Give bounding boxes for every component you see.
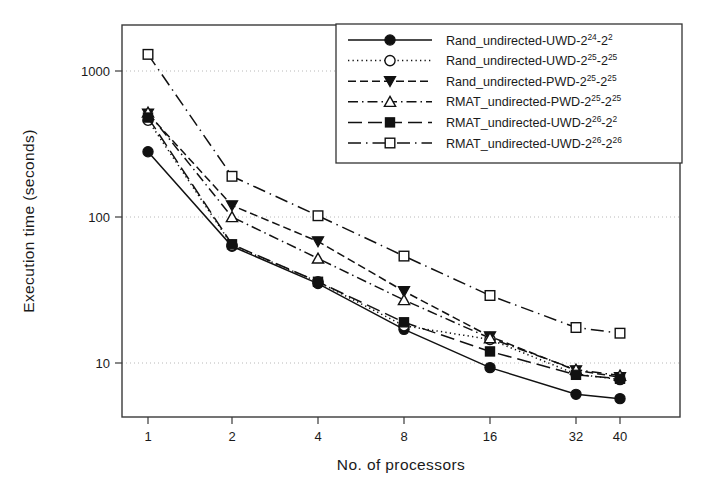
data-point-marker [227, 240, 236, 249]
data-point-marker [313, 211, 323, 221]
data-point-marker [385, 118, 394, 127]
data-point-marker [227, 172, 237, 182]
data-point-marker [313, 277, 322, 286]
y-axis-title: Execution time (seconds) [20, 129, 37, 313]
execution-time-line-chart: 101001000 1248163240 No. of processors E… [0, 0, 712, 502]
data-point-marker [615, 374, 624, 383]
y-tick-label: 10 [96, 356, 110, 371]
data-point-marker [615, 394, 625, 404]
data-point-marker [143, 50, 153, 60]
x-tick-label: 40 [613, 429, 627, 444]
data-point-marker [485, 347, 494, 356]
y-axis: 101001000 [81, 64, 122, 371]
x-tick-label: 32 [569, 429, 583, 444]
data-point-marker [571, 323, 581, 333]
data-point-marker [615, 328, 625, 338]
y-tick-label: 100 [88, 210, 110, 225]
data-point-marker [226, 201, 237, 211]
series-line [148, 152, 620, 399]
x-tick-label: 1 [144, 429, 151, 444]
data-point-marker [571, 389, 581, 399]
data-point-marker [485, 363, 495, 373]
chart-figure: 101001000 1248163240 No. of processors E… [0, 0, 712, 502]
data-point-marker [385, 138, 395, 148]
data-point-marker [399, 318, 408, 327]
x-tick-label: 4 [314, 429, 321, 444]
x-axis: 1248163240 [144, 417, 627, 444]
x-tick-label: 8 [400, 429, 407, 444]
data-point-marker [312, 237, 323, 247]
x-tick-label: 2 [228, 429, 235, 444]
data-point-marker [571, 370, 580, 379]
data-point-marker [385, 35, 395, 45]
data-point-marker [226, 212, 237, 222]
data-point-marker [385, 56, 395, 66]
data-point-marker [312, 253, 323, 263]
x-tick-label: 16 [483, 429, 497, 444]
data-point-marker [143, 147, 153, 157]
y-tick-label: 1000 [81, 64, 110, 79]
x-axis-title: No. of processors [337, 456, 465, 473]
data-point-marker [398, 295, 409, 305]
data-point-marker [399, 251, 409, 261]
data-point-marker [485, 291, 495, 301]
legend: Rand_undirected-UWD-224-22Rand_undirecte… [336, 24, 682, 163]
data-point-marker [143, 113, 152, 122]
legend-label: RMAT_undirected-UWD-226-22 [446, 114, 618, 130]
